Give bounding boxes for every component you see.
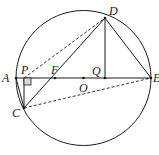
point-d-dot (104, 17, 107, 20)
point-c-dot (23, 107, 26, 110)
label-a: A (1, 71, 10, 85)
label-c: C (12, 106, 21, 120)
label-p: P (20, 63, 29, 77)
point-a-dot (15, 77, 18, 80)
geometry-diagram: A P F O Q E D C (0, 0, 159, 155)
label-f: F (50, 63, 59, 77)
right-angle-marker (24, 78, 31, 85)
label-d: D (108, 4, 118, 18)
point-f-dot (54, 77, 57, 80)
label-e: E (152, 71, 159, 85)
point-q-dot (104, 77, 107, 80)
point-o-dot (82, 77, 85, 80)
label-q: Q (92, 64, 101, 78)
label-o: O (79, 81, 88, 95)
segment-dc (24, 18, 105, 108)
point-e-dot (150, 77, 153, 80)
